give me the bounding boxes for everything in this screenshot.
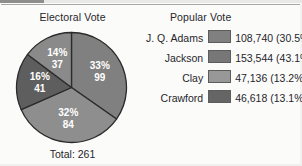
pie-slice-jackson-percent-label: 33% xyxy=(90,60,110,71)
popular-vote-title: Popular Vote xyxy=(146,11,302,23)
legend-swatch-adams xyxy=(208,30,231,43)
pie-slice-crawford-percent-label: 16% xyxy=(30,71,50,82)
scan-artifact-rule xyxy=(1,4,301,5)
scan-artifact-top-band xyxy=(0,0,302,3)
electoral-vote-title: Electoral Vote xyxy=(0,11,145,23)
pie-slice-adams-percent-label: 32% xyxy=(58,107,78,118)
legend-swatch-cell xyxy=(208,48,231,68)
legend-swatch-jackson xyxy=(208,50,231,63)
legend-vote-value: 153,544 (43.1%) xyxy=(231,48,302,68)
legend-swatch-cell xyxy=(208,68,231,88)
legend-row: Crawford46,618 (13.1%) xyxy=(146,88,302,108)
legend-vote-value: 47,136 (13.2%) xyxy=(231,68,302,88)
legend-candidate-name: Crawford xyxy=(146,88,208,108)
chart-figure: Electoral Vote 33%9932%8416%4114%37 Tota… xyxy=(0,0,302,166)
legend-row: J. Q. Adams108,740 (30.5%) xyxy=(146,28,302,48)
legend-candidate-name: Clay xyxy=(146,68,208,88)
electoral-vote-total: Total: 261 xyxy=(0,148,145,160)
scan-artifact-smudge xyxy=(0,0,44,3)
legend-swatch-cell xyxy=(208,28,231,48)
popular-vote-panel: Popular Vote J. Q. Adams108,740 (30.5%)J… xyxy=(146,6,302,166)
legend-swatch-crawford xyxy=(208,90,231,103)
legend-candidate-name: J. Q. Adams xyxy=(146,28,208,48)
popular-vote-legend: J. Q. Adams108,740 (30.5%)Jackson153,544… xyxy=(146,28,302,108)
pie-slice-clay-percent-label: 14% xyxy=(47,47,67,58)
legend-row: Clay47,136 (13.2%) xyxy=(146,68,302,88)
legend-swatch-clay xyxy=(208,70,231,83)
electoral-vote-panel: Electoral Vote 33%9932%8416%4114%37 Tota… xyxy=(0,6,145,166)
legend-swatch-cell xyxy=(208,88,231,108)
electoral-vote-pie-chart: 33%9932%8416%4114%37 xyxy=(15,31,128,144)
pie-slice-crawford-value-label: 41 xyxy=(34,83,46,94)
pie-slice-jackson-value-label: 99 xyxy=(94,72,106,83)
legend-vote-value: 108,740 (30.5%) xyxy=(231,28,302,48)
legend-vote-value: 46,618 (13.1%) xyxy=(231,88,302,108)
pie-slice-clay-value-label: 37 xyxy=(52,59,64,70)
legend-candidate-name: Jackson xyxy=(146,48,208,68)
legend-row: Jackson153,544 (43.1%) xyxy=(146,48,302,68)
pie-slice-adams-value-label: 84 xyxy=(63,119,75,130)
